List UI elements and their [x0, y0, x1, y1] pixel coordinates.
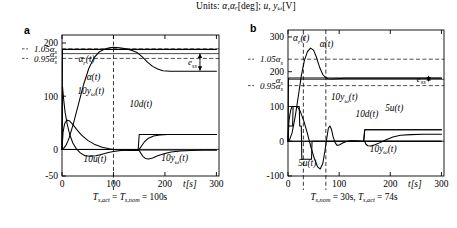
y-tick-label: -100	[267, 171, 285, 181]
x-tick-label: 100	[332, 179, 347, 189]
curve-label-10d: 10d(t)	[356, 109, 379, 120]
x-tick-label: 200	[383, 179, 398, 189]
ess-arrow-head	[198, 54, 202, 59]
y-tick-label: 0	[279, 137, 284, 147]
x-tick-label: 0	[286, 179, 291, 189]
panel-b-letter: b	[250, 22, 256, 34]
x-tick-label: 300	[209, 179, 224, 189]
curve-label-10d: 10d(t)	[129, 99, 152, 110]
panel-b: b3002001000-1001.05αsαs0.95αs0100200300e…	[228, 0, 457, 228]
x-tick-label: 200	[158, 179, 173, 189]
y-tick-label: 300	[270, 32, 285, 42]
series-10u-t-	[62, 87, 216, 157]
curve-label-10y-omega-lower: 10yω(t)	[370, 144, 397, 155]
y-special-label: 1.05αs	[260, 54, 283, 65]
x-tick-label: 300	[434, 179, 449, 189]
panel-a-letter: a	[24, 24, 30, 36]
ess-arrow-head	[198, 66, 202, 71]
panel-a-plot: a2001000-501.05αsαs0.95αs0100200300essαr…	[0, 0, 229, 228]
panel-a-caption: Ts,act = Ts,nom = 100s	[93, 192, 168, 203]
curve-label-alpha-r: αr(t)	[293, 33, 309, 44]
curve-label-alpha: α(t)	[320, 39, 334, 50]
curve-label-10y-omega-lower: 10yω(t)	[161, 153, 188, 164]
y-special-label: 0.95αs	[260, 81, 283, 92]
series-10d-t-	[62, 135, 216, 150]
curve-label-alpha-r: αr(t)	[78, 54, 94, 65]
series-10y-omega-t-after-disturbance	[139, 135, 216, 150]
curve-label-5u-upper: 5u(t)	[385, 103, 403, 114]
ess-label: ess	[188, 57, 197, 68]
y-tick-label: 100	[270, 102, 285, 112]
x-axis-label: t[s]	[183, 179, 197, 189]
x-axis-label: t[s]	[408, 179, 422, 189]
series-alpha-t-	[288, 48, 441, 141]
y-tick-label: 0	[53, 145, 58, 155]
curve-label-alpha: α(t)	[87, 72, 101, 83]
panel-a: a2001000-501.05αsαs0.95αs0100200300essαr…	[0, 0, 229, 228]
curve-label-5u-lower: 5u(t)	[298, 158, 316, 169]
panel-b-plot: b3002001000-1001.05αsαs0.95αs0100200300e…	[228, 0, 457, 228]
curve-label-10u: 10u(t)	[84, 154, 107, 165]
x-tick-label: 0	[60, 179, 65, 189]
ess-label: ess	[417, 74, 426, 85]
y-special-label: 0.95αs	[34, 54, 57, 65]
panel-b-caption: Ts,nom = 30s, Ts,act = 74s	[310, 192, 398, 203]
figure-root: Units: α,αr[deg]; u, yω[V] a2001000-501.…	[0, 0, 457, 228]
curve-label-10y-omega-upper: 10yω(t)	[77, 86, 104, 97]
curve-label-10y-omega-upper: 10yω(t)	[331, 92, 358, 103]
y-tick-label: 100	[44, 92, 59, 102]
y-tick-label: -50	[45, 171, 58, 181]
